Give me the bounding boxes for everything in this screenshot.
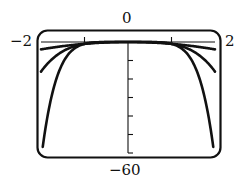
- plot-area: [0, 0, 244, 183]
